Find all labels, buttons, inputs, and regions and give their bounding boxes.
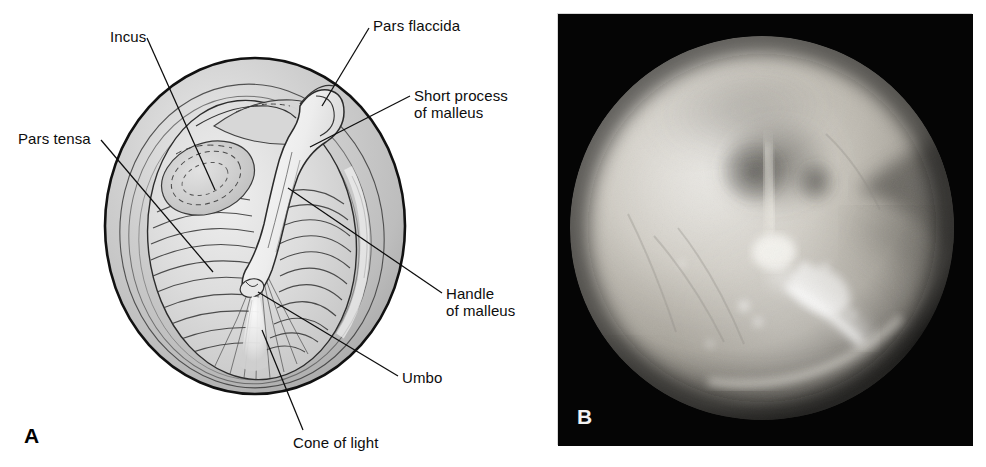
label-handle-of-malleus-line1: Handle xyxy=(446,286,494,302)
label-pars-flaccida: Pars flaccida xyxy=(373,18,460,34)
panel-letter-b: B xyxy=(577,406,592,427)
tympanic-membrane-drawing xyxy=(0,0,500,467)
label-umbo: Umbo xyxy=(402,370,442,386)
panel-b-photograph: B xyxy=(557,13,972,445)
label-short-process-line1: Short process xyxy=(414,88,508,104)
panel-a-diagram: Incus Pars flaccida Short process of mal… xyxy=(0,0,500,467)
panel-letter-a: A xyxy=(24,425,39,446)
label-pars-tensa: Pars tensa xyxy=(18,131,91,147)
label-short-process-line2: of malleus xyxy=(414,105,483,121)
otoscopic-view-image xyxy=(558,14,973,446)
label-incus: Incus xyxy=(110,29,146,45)
figure-container: Incus Pars flaccida Short process of mal… xyxy=(0,0,986,467)
label-handle-of-malleus-line2: of malleus xyxy=(446,303,515,319)
label-cone-of-light: Cone of light xyxy=(293,435,379,451)
